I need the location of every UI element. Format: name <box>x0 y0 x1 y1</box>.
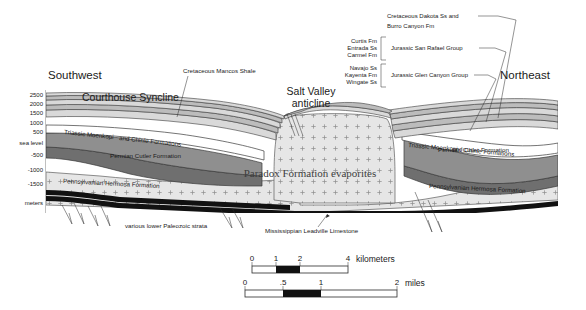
legend-member-wingate: Wingate Ss <box>346 79 377 85</box>
scale-km-tick-1: 1 <box>274 254 279 263</box>
axis-unit-label: meters <box>25 200 43 206</box>
annotation-leadville-limestone: Mississippian Leadville Limestone <box>265 227 359 234</box>
scale-km-tick-2: 2 <box>298 254 303 263</box>
legend-member-navajo: Navajo Ss <box>350 65 377 71</box>
label-salt-valley-anticline-line2: anticline <box>292 97 331 109</box>
salt-diapir <box>274 114 395 203</box>
legend-bracket-glen-canyon <box>381 64 386 87</box>
legend-bracket-san-rafael <box>381 37 386 60</box>
scale-km-tick-0: 0 <box>250 254 255 263</box>
axis-tick-2000: 2000 <box>30 101 44 107</box>
legend-group-glen-canyon: Jurassic Glen Canyon Group <box>391 72 469 78</box>
legend-member-carmel: Carmel Fm <box>347 52 377 58</box>
scale-mi-label: miles <box>405 278 425 288</box>
legend-group-san-rafael: Jurassic San Rafael Group <box>391 45 463 51</box>
axis-tick-1500: 1500 <box>30 110 44 116</box>
scale-bar-miles: 0 .5 1 2 miles <box>243 278 425 297</box>
scale-mi-tick-0: 0 <box>243 278 248 287</box>
unit-label-cutler-left: Permian Cutler Formation <box>110 152 181 159</box>
geologic-cross-section-svg: Southwest Northeast 2500 2000 1500 1000 … <box>0 0 586 310</box>
legend-member-curtis: Curtis Fm <box>351 38 377 44</box>
axis-tick-sea-level: sea level <box>19 140 43 146</box>
legend-cretaceous-line1: Cretaceous Dakota Ss and <box>387 13 459 19</box>
scale-mi-tick-half: .5 <box>280 278 287 287</box>
axis-tick-1000: 1000 <box>30 120 44 126</box>
axis-tick-minus1500: -1500 <box>28 181 44 187</box>
scale-mi-tick-2: 2 <box>395 278 400 287</box>
unit-label-paradox-evaporites: Paradox Formation evaporites <box>244 167 377 179</box>
legend-cretaceous-line2: Burro Canyon Fm <box>387 23 434 29</box>
axis-tick-500: 500 <box>33 129 44 135</box>
label-salt-valley-anticline-line1: Salt Valley <box>287 85 337 97</box>
leader-cretaceous-a <box>478 16 516 20</box>
scale-km-tick-4: 4 <box>346 254 351 263</box>
axis-tick-minus1000: -1000 <box>28 167 44 173</box>
axis-tick-2500: 2500 <box>30 92 44 98</box>
leader-leadville-arrowhead <box>326 214 330 218</box>
leader-san-rafael-a <box>479 48 506 52</box>
scale-bar-kilometers: 0 1 2 4 kilometers <box>250 254 395 273</box>
legend-member-kayenta: Kayenta Fm <box>345 72 377 78</box>
leader-leadville <box>318 215 327 227</box>
scale-km-label: kilometers <box>356 254 395 264</box>
legend-member-entrada: Entrada Ss <box>347 45 377 51</box>
direction-label-southwest: Southwest <box>48 69 103 81</box>
axis-tick-minus500: -500 <box>31 152 44 158</box>
leader-glen-canyon-a <box>474 75 496 79</box>
label-courthouse-syncline: Courthouse Syncline <box>82 91 179 103</box>
cross-section-figure: Southwest Northeast 2500 2000 1500 1000 … <box>0 0 586 310</box>
direction-label-northeast: Northeast <box>500 69 551 81</box>
unit-label-cutler-right: Permian Cutler Formation <box>438 146 509 153</box>
annotation-mancos-shale: Cretaceous Mancos Shale <box>183 67 256 74</box>
annotation-paleozoic-strata: various lower Paleozoic strata <box>125 222 208 229</box>
scale-mi-tick-1: 1 <box>319 278 324 287</box>
